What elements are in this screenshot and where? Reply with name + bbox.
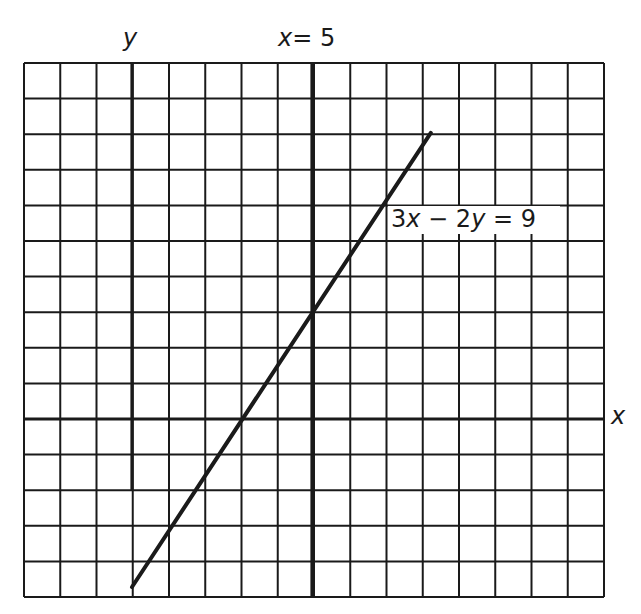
grid-lines — [24, 63, 604, 597]
eq-y: y — [471, 205, 485, 233]
eq-coef: 3 — [391, 205, 406, 233]
eq-minus: − 2 — [420, 205, 471, 233]
coordinate-grid-chart — [0, 0, 641, 614]
line-equation-label: 3x − 2y = 9 — [391, 205, 536, 233]
x-axis-label: x — [611, 402, 625, 430]
vertical-line-label-eq: = 5 — [292, 24, 335, 52]
y-axis-label: y — [123, 24, 137, 52]
vertical-line-label-x: x — [278, 24, 292, 52]
eq-x: x — [406, 205, 420, 233]
vertical-line-label: x= 5 — [278, 24, 335, 52]
eq-end: = 9 — [485, 205, 536, 233]
